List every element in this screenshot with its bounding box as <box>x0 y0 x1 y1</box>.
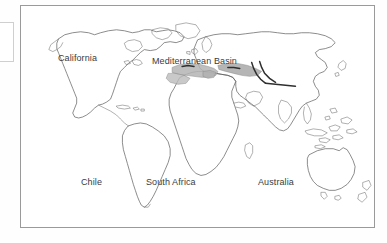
label-australia: Australia <box>258 178 294 187</box>
label-south-africa: South Africa <box>146 178 196 187</box>
figure-root: California Mediterranean Basin Chile Sou… <box>0 0 387 243</box>
edge-box-artifact <box>0 22 14 62</box>
world-map-graphic <box>21 6 374 227</box>
label-california: California <box>58 54 97 63</box>
eurasia-outline <box>187 32 357 149</box>
australia-outline <box>307 148 371 203</box>
map-frame: California Mediterranean Basin Chile Sou… <box>20 5 375 228</box>
mediterranean-shaded-regions <box>166 63 261 84</box>
label-chile: Chile <box>81 178 102 187</box>
south-america-outline <box>122 123 170 207</box>
africa-outline <box>169 71 253 175</box>
label-mediterranean-basin: Mediterranean Basin <box>152 57 237 66</box>
